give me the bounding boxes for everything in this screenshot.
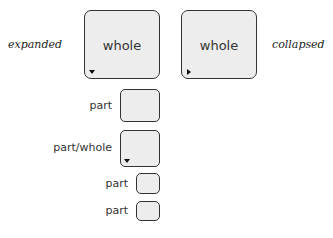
whole-box-collapsed[interactable]: whole [181, 10, 257, 79]
whole-label: whole [182, 37, 256, 52]
whole-box-expanded[interactable]: whole [84, 10, 160, 79]
part-box-small[interactable] [136, 173, 160, 194]
expanded-label: expanded [8, 38, 62, 51]
part-whole-label: part/whole [53, 141, 112, 154]
collapsed-triangle-icon[interactable] [187, 69, 191, 75]
part-box[interactable] [120, 89, 160, 122]
expanded-triangle-icon[interactable] [89, 70, 95, 74]
collapsed-label: collapsed [272, 38, 325, 51]
part-box-small[interactable] [136, 201, 160, 221]
part-label: part [89, 99, 112, 112]
whole-label: whole [85, 37, 159, 52]
part-label: part [105, 177, 128, 190]
expanded-triangle-icon[interactable] [124, 159, 130, 163]
part-whole-box[interactable] [120, 130, 160, 167]
part-label: part [105, 204, 128, 217]
